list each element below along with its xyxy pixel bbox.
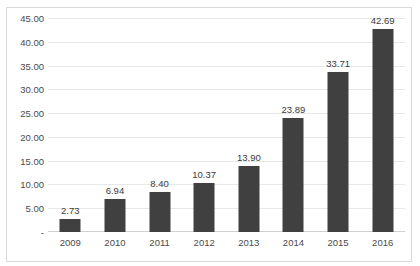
y-tick-label: 25.00	[4, 108, 44, 119]
bar[interactable]	[104, 199, 125, 232]
bar[interactable]	[283, 118, 304, 232]
x-tick-label: 2012	[194, 237, 215, 248]
y-tick-label: 35.00	[4, 60, 44, 71]
y-tick-label: 5.00	[4, 203, 44, 214]
x-tick-label: 2013	[238, 237, 259, 248]
y-tick-label: -	[4, 227, 44, 238]
bar[interactable]	[328, 72, 349, 232]
x-tick-label: 2010	[104, 237, 125, 248]
y-tick-label: 10.00	[4, 179, 44, 190]
y-tick-label: 30.00	[4, 84, 44, 95]
bar-value-label: 42.69	[371, 15, 395, 26]
bar-slot: 2.73	[48, 18, 93, 232]
bar-value-label: 23.89	[282, 104, 306, 115]
bar[interactable]	[238, 166, 259, 232]
bar-slot: 23.89	[271, 18, 316, 232]
x-tick-label: 2016	[372, 237, 393, 248]
bar[interactable]	[149, 192, 170, 232]
x-axis: 20092010201120122013201420152016	[48, 233, 405, 253]
plot-area: 2.736.948.4010.3713.9023.8933.7142.69	[48, 18, 405, 232]
x-tick-label: 2015	[327, 237, 348, 248]
bar-slot: 10.37	[182, 18, 227, 232]
bar-value-label: 33.71	[326, 58, 350, 69]
y-tick-label: 15.00	[4, 155, 44, 166]
bar[interactable]	[60, 219, 81, 232]
bar-slot: 33.71	[316, 18, 361, 232]
y-tick-label: 20.00	[4, 131, 44, 142]
x-tick-label: 2011	[149, 237, 169, 248]
y-tick-label: 45.00	[4, 13, 44, 24]
bar[interactable]	[194, 183, 215, 232]
bar-value-label: 6.94	[106, 185, 125, 196]
bar-slot: 13.90	[227, 18, 272, 232]
y-tick-label: 40.00	[4, 36, 44, 47]
bar-slot: 42.69	[360, 18, 405, 232]
bar[interactable]	[372, 29, 393, 232]
bar-value-label: 8.40	[150, 178, 169, 189]
bar-value-label: 2.73	[61, 205, 80, 216]
x-tick-label: 2014	[283, 237, 304, 248]
bar-value-label: 13.90	[237, 152, 261, 163]
y-axis: 45.0040.0035.0030.0025.0020.0015.0010.00…	[0, 18, 44, 232]
bar-value-label: 10.37	[192, 169, 216, 180]
bar-chart: 45.0040.0035.0030.0025.0020.0015.0010.00…	[0, 0, 420, 266]
bar-slot: 6.94	[93, 18, 138, 232]
x-tick-label: 2009	[60, 237, 81, 248]
bar-slot: 8.40	[137, 18, 182, 232]
